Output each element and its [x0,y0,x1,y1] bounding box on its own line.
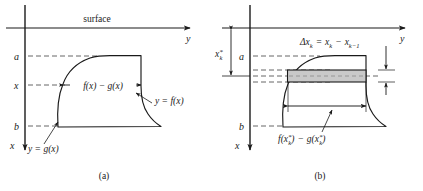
panel-b-delta-term2-sub: k−1 [349,42,360,49]
panel-b-tick-b: b [239,121,244,132]
panel-b-xstar-label: x*k [214,48,223,61]
panel-a-tick-x: x [13,80,19,91]
panel-b-width-g-base: g(x [307,134,320,145]
panel-b-width-label: f(x*k)−g(x*k) [278,133,325,146]
panel-a-width-label: f(x) − g(x) [83,81,123,92]
panel-a-g-leader [44,122,58,144]
panel-b-delta-label: Δxk=xk−xk−1 [299,37,359,49]
panel-b-width-minus: − [297,134,303,144]
panel-a-y-axis-label: y [185,33,191,44]
panel-a-curve-label-g: y = g(x) [27,144,59,155]
panel-b-delta-term1-sub: k [329,42,332,49]
panel-b [222,5,405,150]
panel-a-tick-a: a [14,51,19,62]
panel-a-caption: (a) [99,171,110,182]
panel-b-width-g-close: ) [321,134,325,145]
panel-a-surface-label: surface [83,14,110,24]
panel-b-caption: (b) [314,171,325,182]
panel-b-x-axis-label: x [234,140,240,151]
figure-canvas: surface y x a x b f(x) − g(x) y = f(x) y… [0,0,423,191]
panel-b-delta-sub1: k [310,42,313,49]
panel-a [6,5,190,150]
figure-root: surface y x a x b f(x) − g(x) y = f(x) y… [0,0,423,191]
panel-b-width-leader [322,110,332,132]
panel-b-tick-a: a [239,51,244,62]
panel-a-curve-label-f: y = f(x) [154,96,184,107]
panel-b-region-outline [283,56,386,127]
panel-b-delta-equals: = [316,37,322,47]
panel-a-f-leader [136,93,152,103]
panel-b-xstar-subscript: k [220,54,223,61]
panel-b-width-f-close: ) [290,134,294,145]
panel-b-delta-minus: − [335,37,341,47]
panel-b-y-axis-label: y [399,33,405,44]
panel-a-x-axis-label: x [9,140,15,151]
panel-a-tick-b: b [14,121,19,132]
